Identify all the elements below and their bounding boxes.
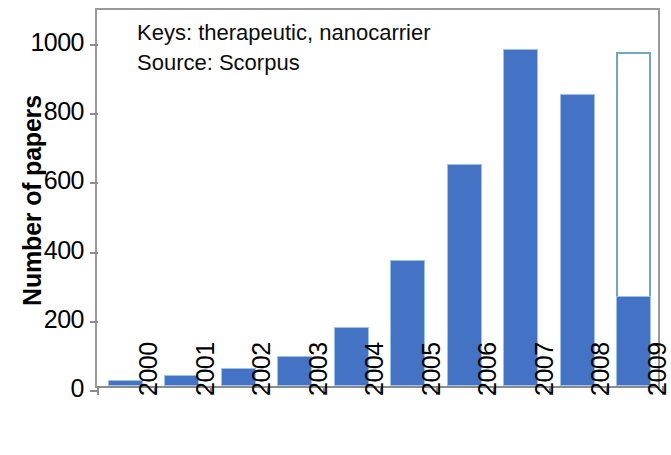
- x-tick-label-2008: 2008: [586, 342, 615, 396]
- x-tick-label-2009: 2009: [643, 342, 671, 396]
- x-tick-label-2007: 2007: [530, 342, 559, 396]
- x-tick-label-2003: 2003: [304, 342, 333, 396]
- x-tick-label-2002: 2002: [247, 342, 276, 396]
- x-tick-label-2001: 2001: [191, 342, 220, 396]
- x-tick-label-2004: 2004: [360, 342, 389, 396]
- x-tick-label-2005: 2005: [417, 342, 446, 396]
- x-tick-label-2006: 2006: [473, 342, 502, 396]
- x-tick-label-2000: 2000: [134, 342, 163, 396]
